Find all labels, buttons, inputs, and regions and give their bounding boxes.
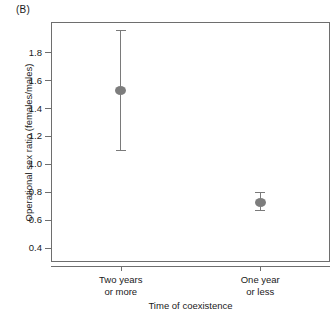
x-axis-tick-label-line: One year <box>205 274 315 286</box>
x-axis-tick-label-line: or more <box>66 286 176 298</box>
x-axis-tick-label-line: or less <box>205 286 315 298</box>
error-bar-cap-lower <box>116 150 126 151</box>
x-axis-tick-mark <box>121 266 122 271</box>
data-point-marker <box>115 86 126 95</box>
y-axis-title: Operational sex ratio (females/males) <box>23 28 34 258</box>
error-bar-cap-lower <box>255 210 265 211</box>
plot-area <box>51 22 330 262</box>
x-axis-tick-label: Two yearsor more <box>66 274 176 297</box>
x-axis-title: Time of coexistence <box>51 300 330 311</box>
x-axis-line <box>51 266 330 267</box>
figure-panel-b: (B) 0.40.60.81.01.21.41.61.8 Operational… <box>0 0 333 316</box>
x-axis-tick-mark <box>260 266 261 271</box>
x-axis-tick-label-line: Two years <box>66 274 176 286</box>
data-point-marker <box>255 198 266 207</box>
error-bar-cap-upper <box>116 30 126 31</box>
x-axis-tick-label: One yearor less <box>205 274 315 297</box>
error-bar-cap-upper <box>255 192 265 193</box>
panel-label: (B) <box>16 4 30 15</box>
